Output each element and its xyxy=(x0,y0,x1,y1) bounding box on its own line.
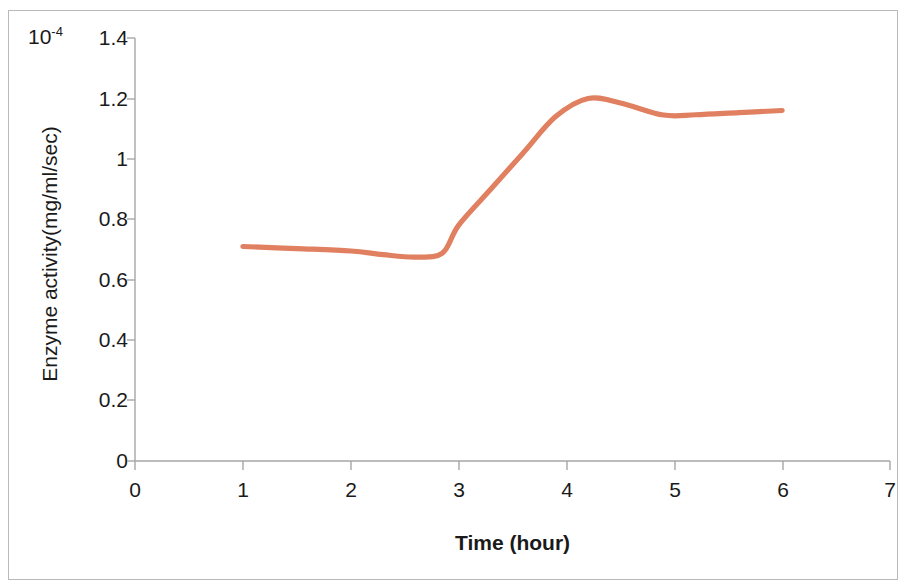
chart-figure: 10-4 0 0.2 0.4 0.6 0.8 1 1.2 1.4 0 1 2 3… xyxy=(0,0,904,587)
data-series-line xyxy=(243,98,782,257)
plot-area xyxy=(0,0,904,587)
y-axis-ticks xyxy=(127,38,135,461)
x-axis-ticks xyxy=(135,461,890,470)
